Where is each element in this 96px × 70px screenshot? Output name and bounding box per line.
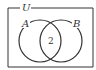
set-b-label: B [72,18,80,29]
venn-diagram: U A B 2 [0,0,96,70]
set-a-label: A [21,18,29,29]
intersection-value: 2 [48,36,54,46]
universe-label: U [22,2,31,13]
